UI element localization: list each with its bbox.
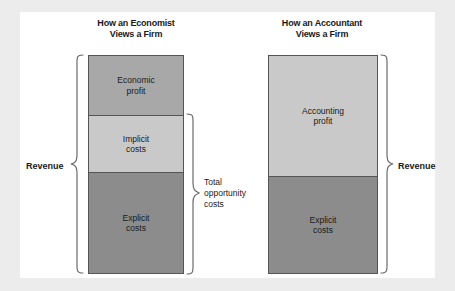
figure-panel: How an Economist Views a Firm Revenue Ec… [20,12,435,278]
accountant-title-line2: Views a Firm [248,29,396,40]
opportunity-costs-label: Total opportunity costs [204,177,266,210]
economist-revenue-label: Revenue [26,161,64,171]
opportunity-costs-brace [186,113,200,275]
opportunity-line2: opportunity [204,188,266,199]
implicit-costs-line2: costs [123,144,149,155]
accountant-column-title: How an Accountant Views a Firm [248,18,396,40]
accountant-revenue-label: Revenue [398,161,436,171]
economist-revenue-brace [70,54,84,274]
segment-implicit-costs: Implicit costs [89,116,183,172]
economic-profit-line1: Economic [117,75,154,86]
economist-title-line2: Views a Firm [68,29,204,40]
economist-title-line1: How an Economist [68,18,204,29]
accountant-bar: Accounting profit Explicit costs [268,55,378,274]
segment-explicit-costs-accountant: Explicit costs [269,177,377,273]
economic-profit-line2: profit [117,86,154,97]
accountant-revenue-brace [380,54,394,274]
economist-column-title: How an Economist Views a Firm [68,18,204,40]
accounting-profit-line2: profit [302,116,344,127]
explicit-costs-economist-line2: costs [123,223,150,234]
implicit-costs-line1: Implicit [123,134,149,145]
economist-bar: Economic profit Implicit costs Explicit … [88,55,184,274]
explicit-costs-accountant-line2: costs [310,225,337,236]
opportunity-line1: Total [204,177,266,188]
segment-economic-profit: Economic profit [89,56,183,115]
explicit-costs-economist-line1: Explicit [123,213,150,224]
opportunity-line3: costs [204,199,266,210]
segment-accounting-profit: Accounting profit [269,56,377,176]
explicit-costs-accountant-line1: Explicit [310,215,337,226]
accountant-title-line1: How an Accountant [248,18,396,29]
segment-explicit-costs-economist: Explicit costs [89,173,183,273]
accounting-profit-line1: Accounting [302,106,344,117]
